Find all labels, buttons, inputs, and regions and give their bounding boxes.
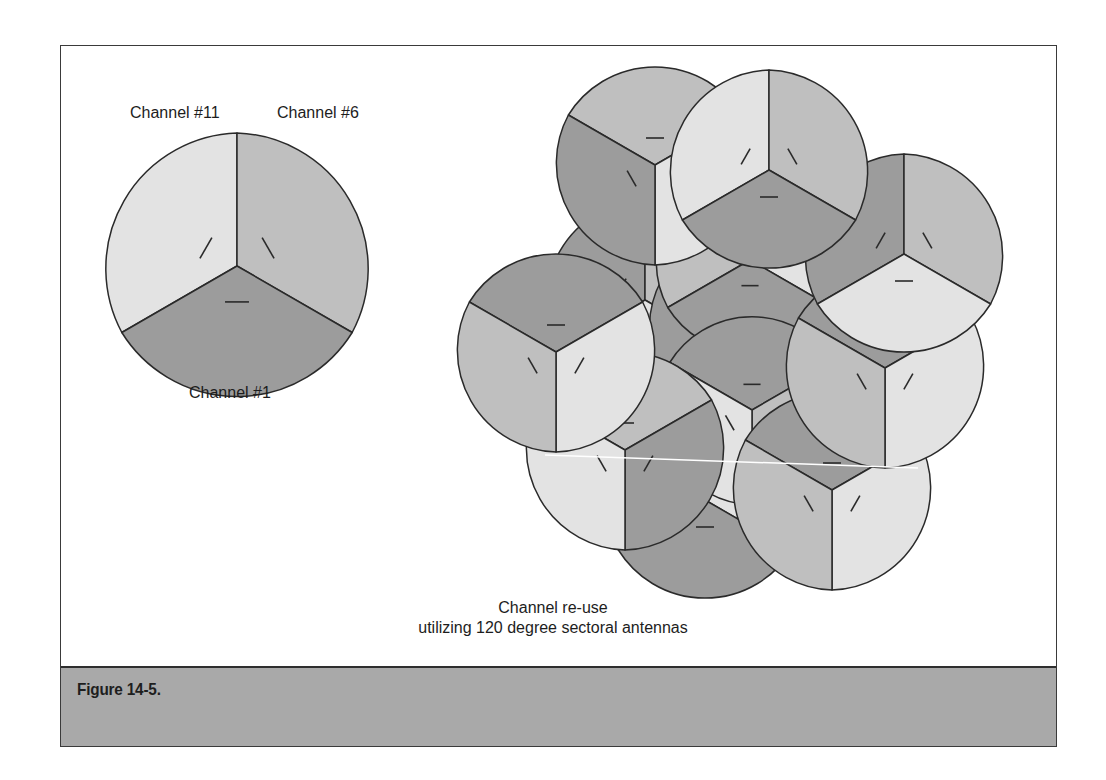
cell-c-top-right xyxy=(670,70,867,268)
caption-line-1: Channel re-use xyxy=(0,598,1106,618)
cell-cluster xyxy=(106,67,1003,598)
label-channel-6: Channel #6 xyxy=(277,104,359,122)
label-channel-11: Channel #11 xyxy=(130,104,220,122)
diagram-caption: Channel re-use utilizing 120 degree sect… xyxy=(0,598,1106,638)
caption-line-2: utilizing 120 degree sectoral antennas xyxy=(0,618,1106,638)
cell-c-left xyxy=(457,254,654,452)
cell-single xyxy=(106,133,368,396)
label-channel-1: Channel #1 xyxy=(189,384,271,402)
